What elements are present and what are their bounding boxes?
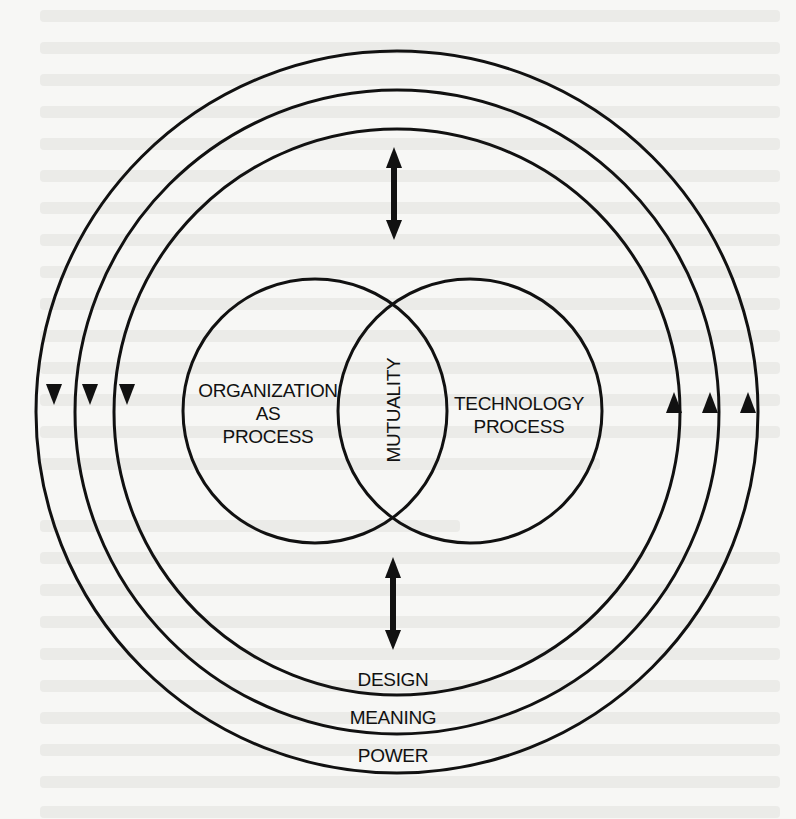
label-organization-line1: ORGANIZATION	[198, 380, 338, 401]
label-mutuality: MUTUALITY	[383, 357, 404, 463]
label-meaning: MEANING	[350, 707, 437, 728]
arrow-down-icon	[82, 384, 98, 405]
diagram-page: ORGANIZATION AS PROCESS TECHNOLOGY PROCE…	[0, 0, 796, 819]
top-double-arrow-icon	[386, 147, 402, 240]
label-power: POWER	[358, 745, 428, 766]
arrow-up-icon	[702, 392, 718, 413]
label-organization-line2: AS	[256, 403, 281, 424]
arrow-down-icon	[46, 384, 62, 405]
label-design: DESIGN	[357, 669, 428, 690]
label-technology-line2: PROCESS	[474, 416, 565, 437]
arrow-down-icon	[119, 384, 135, 405]
bottom-double-arrow-icon	[385, 557, 401, 650]
circle-organization	[183, 279, 447, 543]
label-technology-line1: TECHNOLOGY	[454, 393, 585, 414]
arrow-up-icon	[740, 392, 756, 413]
label-organization-line3: PROCESS	[223, 426, 314, 447]
process-diagram: ORGANIZATION AS PROCESS TECHNOLOGY PROCE…	[0, 0, 796, 819]
left-down-arrowheads	[46, 384, 135, 405]
